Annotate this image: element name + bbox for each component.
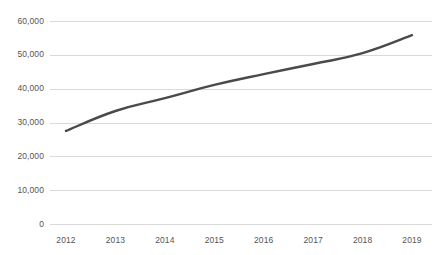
x-tick-label: 2015	[194, 236, 234, 245]
y-tick-label: 20,000	[17, 152, 44, 161]
y-tick-label: 30,000	[17, 118, 44, 127]
series-line	[66, 35, 412, 131]
line-chart: 010,00020,00030,00040,00050,00060,000 20…	[0, 0, 443, 255]
y-tick-label: 40,000	[17, 84, 44, 93]
x-tick-label: 2014	[145, 236, 185, 245]
y-tick-label: 60,000	[17, 17, 44, 26]
chart-plot-area	[0, 0, 443, 255]
x-tick-label: 2017	[293, 236, 333, 245]
x-tick-label: 2013	[95, 236, 135, 245]
y-tick-label: 50,000	[17, 50, 44, 59]
y-tick-label: 10,000	[17, 186, 44, 195]
x-tick-label: 2016	[244, 236, 284, 245]
y-tick-label: 0	[39, 220, 44, 229]
x-tick-label: 2019	[392, 236, 432, 245]
x-tick-label: 2018	[343, 236, 383, 245]
gridlines-group	[50, 22, 432, 225]
x-tick-label: 2012	[46, 236, 86, 245]
